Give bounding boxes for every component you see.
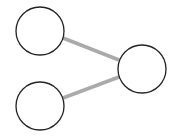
nodes-group [16, 7, 166, 130]
diagram-canvas [0, 0, 182, 137]
graph-svg [0, 0, 182, 137]
edge-n2-n3 [63, 77, 119, 98]
node-n3 [118, 45, 166, 93]
node-n2 [16, 82, 64, 130]
node-n1 [16, 7, 64, 55]
edge-n1-n3 [63, 38, 119, 60]
edges-group [63, 38, 119, 98]
